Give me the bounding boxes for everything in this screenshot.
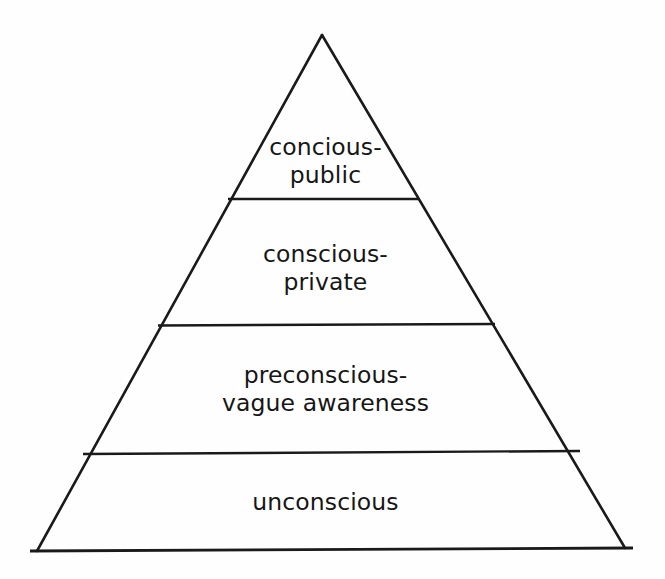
pyramid-level-label-conscious-private-line1: conscious-: [0, 241, 658, 269]
pyramid-level-label-conscious-public: concious- public: [0, 134, 658, 189]
pyramid-level-label-unconscious: unconscious: [0, 489, 658, 517]
pyramid-level-label-preconscious: preconscious- vague awareness: [0, 362, 658, 417]
pyramid-level-label-unconscious-line1: unconscious: [0, 489, 658, 517]
pyramid-level-label-preconscious-line1: preconscious-: [0, 362, 658, 390]
pyramid-base-line: [30, 548, 633, 551]
pyramid-diagram: concious- public conscious- private prec…: [0, 0, 665, 579]
pyramid-divider-2: [158, 324, 495, 326]
pyramid-level-label-conscious-private: conscious- private: [0, 241, 658, 296]
pyramid-level-label-conscious-private-line2: private: [0, 269, 658, 297]
pyramid-level-label-preconscious-line2: vague awareness: [0, 390, 658, 418]
pyramid-level-label-conscious-public-line1: concious-: [0, 134, 658, 162]
pyramid-level-label-conscious-public-line2: public: [0, 162, 658, 190]
pyramid-divider-3: [83, 451, 580, 454]
